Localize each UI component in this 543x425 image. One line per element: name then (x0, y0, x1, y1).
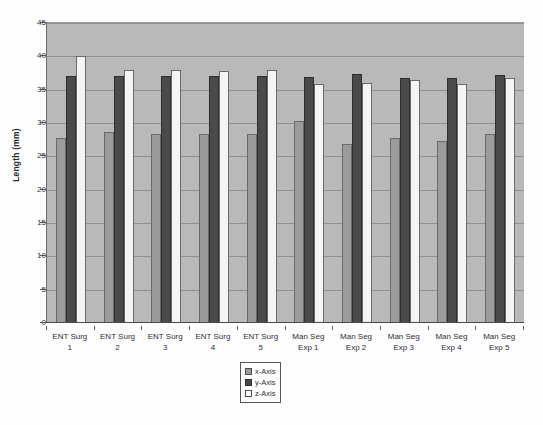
bar-y-axis (209, 76, 219, 323)
bar-group (95, 23, 143, 323)
bar-y-axis (304, 77, 314, 323)
legend-item: z-Axis (245, 388, 275, 399)
bar-z-axis (171, 70, 181, 323)
bar-x-axis (485, 134, 495, 323)
bar-x-axis (294, 121, 304, 323)
bar-group (47, 23, 95, 323)
chart-legend: x-Axisy-Axisz-Axis (240, 362, 281, 403)
bar-y-axis (447, 78, 457, 323)
bar-z-axis (267, 70, 277, 323)
legend-item-label: y-Axis (255, 378, 275, 387)
bar-y-axis (66, 76, 76, 323)
y-axis-ticks: 051015202530354045 (0, 0, 46, 323)
bar-x-axis (199, 134, 209, 323)
bar-z-axis (314, 84, 324, 323)
legend-item-label: x-Axis (255, 367, 275, 376)
x-axis-tick-mark (46, 326, 47, 330)
bar-x-axis (437, 141, 447, 323)
x-axis-category-label: Man SegExp 5 (471, 332, 527, 353)
bar-group (381, 23, 429, 323)
legend-swatch-icon (245, 368, 252, 375)
bar-z-axis (457, 84, 467, 323)
bar-z-axis (505, 78, 515, 323)
bar-y-axis (257, 76, 267, 323)
x-axis-tick-mark (285, 326, 286, 330)
x-axis-tick-mark (428, 326, 429, 330)
legend-swatch-icon (245, 390, 252, 397)
x-axis-tick-mark (380, 326, 381, 330)
x-axis-tick-mark (332, 326, 333, 330)
bar-x-axis (104, 132, 114, 323)
bar-z-axis (219, 71, 229, 323)
bar-z-axis (410, 80, 420, 323)
bar-x-axis (151, 134, 161, 323)
bar-x-axis (247, 134, 257, 323)
bar-z-axis (124, 70, 134, 323)
x-axis-tick-mark (94, 326, 95, 330)
bar-group (286, 23, 334, 323)
plot-inner (47, 23, 524, 323)
bar-group (476, 23, 524, 323)
bar-y-axis (161, 76, 171, 323)
bar-group (142, 23, 190, 323)
bar-y-axis (352, 74, 362, 323)
bar-chart-figure: Length (mm) 051015202530354045 ENT Surg1… (0, 0, 543, 425)
x-axis-category-labels: ENT Surg1ENT Surg2ENT Surg3ENT Surg4ENT … (46, 326, 524, 360)
bar-y-axis (495, 75, 505, 323)
bar-group (238, 23, 286, 323)
x-axis-tick-mark (523, 326, 524, 330)
legend-item: x-Axis (245, 366, 275, 377)
bar-z-axis (362, 83, 372, 323)
bar-z-axis (76, 56, 86, 323)
bar-x-axis (390, 138, 400, 323)
bar-group (429, 23, 477, 323)
x-axis-tick-mark (475, 326, 476, 330)
bar-group (333, 23, 381, 323)
bar-x-axis (342, 144, 352, 323)
x-axis-line (46, 322, 524, 323)
bar-y-axis (400, 78, 410, 323)
bar-group (190, 23, 238, 323)
legend-swatch-icon (245, 379, 252, 386)
legend-item-label: z-Axis (255, 389, 275, 398)
bar-x-axis (56, 138, 66, 323)
legend-item: y-Axis (245, 377, 275, 388)
x-axis-tick-mark (141, 326, 142, 330)
x-axis-tick-mark (189, 326, 190, 330)
x-axis-tick-mark (237, 326, 238, 330)
plot-area (46, 22, 524, 323)
bar-y-axis (114, 76, 124, 323)
